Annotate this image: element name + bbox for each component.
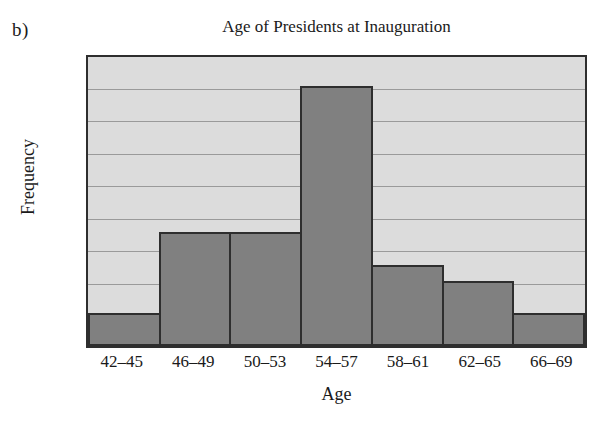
x-tick-label: 62–65 — [444, 353, 516, 370]
x-axis-title: Age — [86, 385, 587, 403]
x-tick-label: 58–61 — [372, 353, 444, 370]
x-axis-tick-labels: 42–4546–4950–5354–5758–6162–6566–69 — [86, 353, 587, 370]
x-tick-label: 46–49 — [158, 353, 230, 370]
bar-series — [88, 57, 585, 346]
plot-area — [86, 55, 587, 348]
chart-title: Age of Presidents at Inauguration — [86, 18, 587, 35]
histogram-figure: b) Age of Presidents at Inauguration Fre… — [0, 0, 607, 431]
x-tick-label: 50–53 — [229, 353, 301, 370]
x-tick-label: 66–69 — [515, 353, 587, 370]
x-tick-label: 42–45 — [86, 353, 158, 370]
y-axis-title: Frequency — [19, 87, 37, 267]
panel-label: b) — [12, 20, 29, 39]
bar — [512, 313, 585, 346]
bar — [159, 232, 232, 346]
bar — [300, 86, 373, 346]
bar — [229, 232, 302, 346]
bar — [442, 281, 515, 346]
bar — [371, 265, 444, 346]
x-tick-label: 54–57 — [301, 353, 373, 370]
bar — [88, 313, 161, 346]
